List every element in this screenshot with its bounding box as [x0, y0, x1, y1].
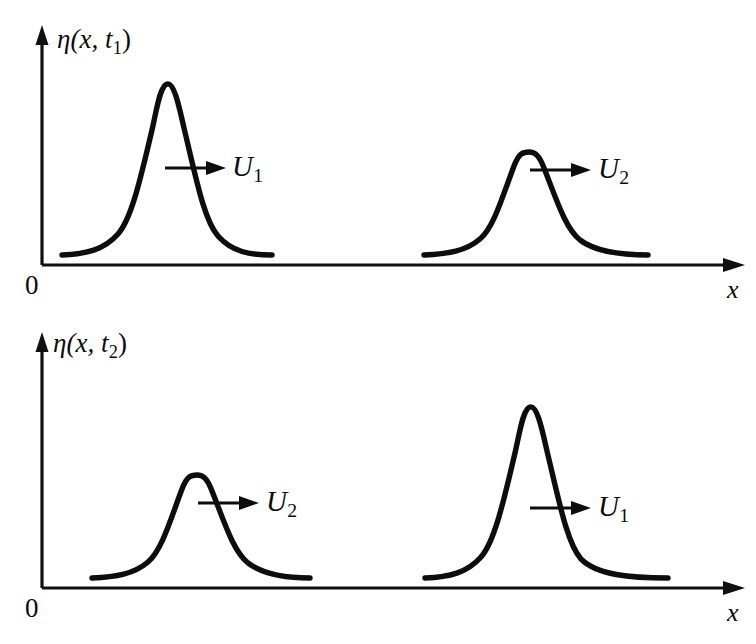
velocity-label-u1-top: U1 [232, 152, 263, 186]
panel-t2-graphics [0, 322, 756, 644]
velocity-label-u2-top-symbol: U [598, 152, 619, 184]
y-axis-label-args-t1: (x, t [70, 24, 112, 54]
x-axis-label-t1: x [727, 277, 739, 303]
x-axis-arrowhead-t2 [723, 581, 745, 595]
y-axis-label-sub-t2: 2 [108, 342, 118, 362]
velocity-label-u1-bottom: U1 [598, 492, 629, 526]
origin-label-t1: 0 [25, 272, 39, 299]
velocity-label-u1-bottom-sub: 1 [619, 504, 629, 526]
y-axis-label-args-t2: (x, t [66, 328, 108, 358]
pulse-u1-bottom [425, 407, 668, 578]
velocity-label-u1-top-sub: 1 [253, 164, 263, 186]
y-axis-label-t2: η(x, t2) [53, 330, 127, 361]
y-axis-label-t1: η(x, t1) [57, 26, 131, 57]
velocity-label-u2-bottom: U2 [266, 487, 297, 521]
origin-label-t2: 0 [25, 595, 39, 622]
y-axis-label-eta-t1: η [57, 24, 70, 54]
velocity-arrow-head-u2-bottom [239, 496, 259, 510]
velocity-arrow-head-u1-top [206, 161, 226, 175]
y-axis-arrowhead-t2 [36, 332, 49, 352]
y-axis-arrowhead-t1 [36, 25, 49, 45]
y-axis-label-sub-t1: 1 [112, 38, 122, 58]
velocity-arrow-head-u1-bottom [571, 501, 591, 515]
velocity-label-u1-top-symbol: U [232, 150, 253, 182]
velocity-label-u2-bottom-symbol: U [266, 485, 287, 517]
x-axis-arrowhead-t1 [723, 258, 745, 272]
velocity-label-u1-bottom-symbol: U [598, 490, 619, 522]
velocity-arrow-head-u2-top [571, 163, 591, 177]
soliton-overtaking-figure: η(x, t1) 0 x U1 U2 η(x, t2) 0 x U2 U1 [0, 0, 756, 644]
velocity-label-u2-bottom-sub: 2 [287, 499, 297, 521]
y-axis-label-close-t2: ) [118, 328, 127, 358]
x-axis-label-t2: x [727, 600, 739, 626]
y-axis-label-close-t1: ) [122, 24, 131, 54]
velocity-label-u2-top-sub: 2 [619, 166, 629, 188]
y-axis-label-eta-t2: η [53, 328, 66, 358]
velocity-label-u2-top: U2 [598, 154, 629, 188]
